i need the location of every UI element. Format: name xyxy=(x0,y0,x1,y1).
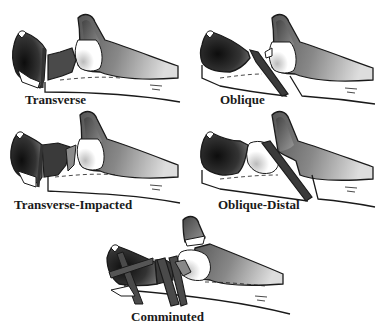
oblique-fracture-illustration xyxy=(190,0,383,110)
label-comminuted: Comminuted xyxy=(131,310,204,324)
panel-transverse-impacted: Transverse-Impacted xyxy=(0,105,190,215)
panel-oblique-distal: Oblique-Distal xyxy=(190,105,383,215)
panel-oblique: Oblique xyxy=(190,0,383,110)
panel-comminuted: Comminuted xyxy=(95,210,295,333)
panel-transverse: Transverse xyxy=(0,0,190,110)
